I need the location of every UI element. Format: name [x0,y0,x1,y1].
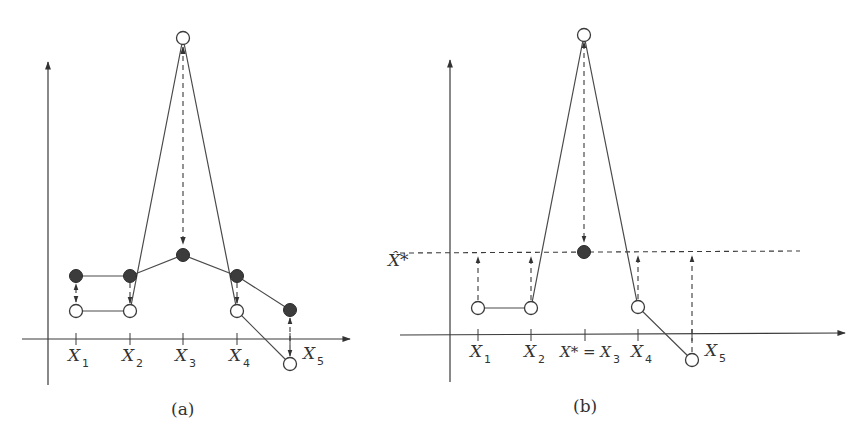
svg-text:X1: X1 [468,341,491,366]
x-label-b-5-base: X [703,340,718,360]
x-label-b-4-base: X [629,341,644,361]
x-label-a-3-base: X [173,345,188,365]
caption-b: (b) [573,396,597,416]
smoothed-points-a [70,249,297,317]
x-label-a-4-sub: 4 [243,357,250,370]
x-label-a-5-base: X [301,343,316,363]
panel-a: X1 X2 X3 X4 X5 (a) [22,32,350,420]
x-label-a-2-sub: 2 [136,357,143,370]
caption-a: (a) [171,399,194,419]
x-label-a-5-sub: 5 [317,355,324,368]
level-line-xhat [400,251,800,253]
x-label-b-1-base: X [468,341,483,361]
svg-text:X5: X5 [703,340,726,365]
svg-text:X5: X5 [301,343,324,368]
x-label-a-4-base: X [227,345,242,365]
svg-text:X2: X2 [120,345,143,370]
x-label-a-1-base: X [66,345,81,365]
figure: X1 X2 X3 X4 X5 (a) [0,0,861,440]
y-label-xhat-text: X̂* [386,250,409,270]
x-label-b-3-sub: 3 [613,353,620,366]
smoothed-line-a [76,255,290,310]
shift-arrows-b [478,42,692,352]
x-label-b-2-sub: 2 [538,353,545,366]
smoothed-point-b [578,246,591,259]
x-label-b-2-base: X [522,341,537,361]
original-line-b [478,35,692,360]
x-label-a-2-base: X [120,345,135,365]
svg-text:X3: X3 [173,345,196,370]
original-points-b [472,29,699,367]
x-axis-b [400,333,845,335]
svg-text:X4: X4 [629,341,652,366]
x-label-b-5-sub: 5 [719,352,726,365]
x-label-b-1-sub: 1 [484,353,491,366]
x-label-a-1-sub: 1 [82,357,89,370]
x-label-b-3-base: X* = X [559,343,612,361]
shift-arrows-a [76,47,290,356]
svg-text:X4: X4 [227,345,250,370]
panel-b: X̂* X1 X2 X* = X3 X4 X5 (b) [386,29,845,417]
x-label-a-3-sub: 3 [189,357,196,370]
x-label-b-4-sub: 4 [645,353,652,366]
svg-text:X1: X1 [66,345,89,370]
svg-text:X2: X2 [522,341,545,366]
y-label-xhat: X̂* [386,250,409,270]
svg-text:X* = X3: X* = X3 [559,343,620,366]
